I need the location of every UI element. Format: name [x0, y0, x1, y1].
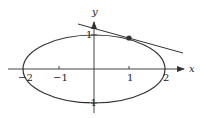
x-tick-label-minus-2: −2 [18, 72, 33, 83]
y-tick-label-minus-1: −1 [82, 97, 97, 108]
x-tick-label-minus-1: −1 [53, 72, 68, 83]
tangent-point [126, 35, 131, 40]
y-axis-label: y [91, 6, 98, 17]
x-tick-label-2: 2 [163, 72, 169, 83]
x-tick-label-1: 1 [127, 72, 133, 83]
y-tick-label-1: 1 [86, 29, 92, 40]
x-axis-label: x [189, 63, 195, 74]
ellipse-diagram: y x −2 −1 1 2 1 −1 [0, 0, 206, 118]
